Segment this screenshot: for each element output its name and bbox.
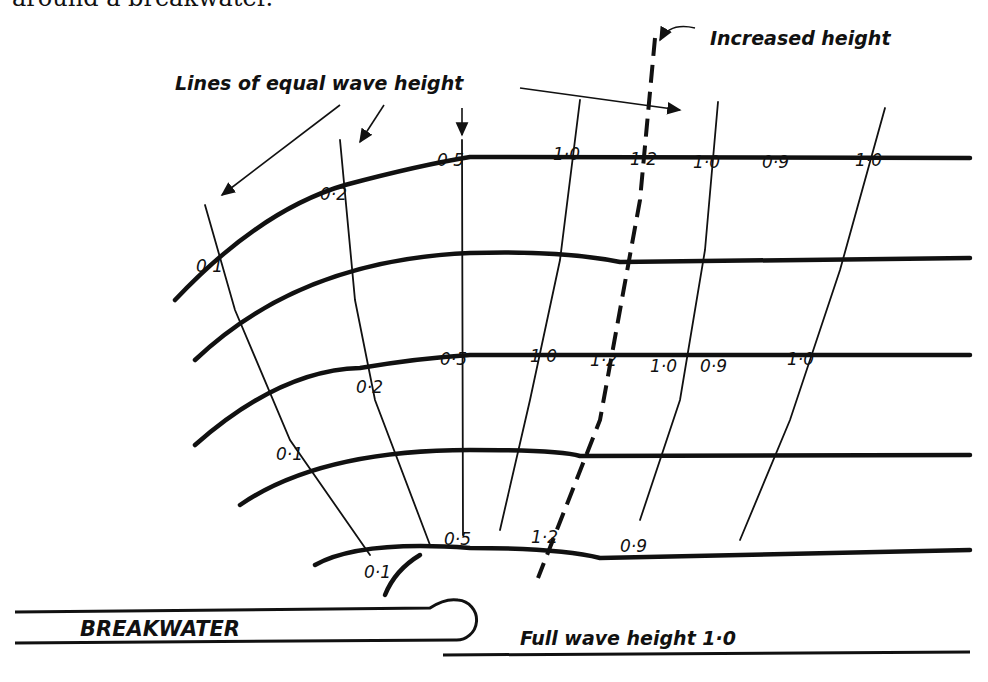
svg-text:0·1: 0·1 bbox=[196, 256, 223, 276]
wave-diffraction-diagram: Increased height Lines of equal wave hei… bbox=[0, 0, 988, 682]
svg-text:1·0: 1·0 bbox=[553, 144, 580, 164]
top-row-labels: 0·1 0·2 0·5 1·0 1·2 1·0 0·9 1·0 bbox=[196, 144, 882, 276]
svg-text:0·5: 0·5 bbox=[437, 150, 464, 170]
svg-text:0·2: 0·2 bbox=[356, 377, 383, 397]
svg-text:0·1: 0·1 bbox=[276, 444, 303, 464]
svg-text:1·0: 1·0 bbox=[787, 349, 814, 369]
svg-text:1·2: 1·2 bbox=[590, 350, 617, 370]
breakwater-label: BREAKWATER bbox=[80, 617, 240, 641]
full-wave-height-label: Full wave height 1·0 bbox=[520, 627, 736, 649]
svg-text:0·5: 0·5 bbox=[444, 529, 471, 549]
svg-text:0·1: 0·1 bbox=[364, 562, 391, 582]
equal-height-label: Lines of equal wave height bbox=[175, 72, 464, 94]
svg-text:1·2: 1·2 bbox=[531, 527, 558, 547]
svg-text:0·9: 0·9 bbox=[620, 536, 647, 556]
increased-height-arrow bbox=[660, 27, 695, 41]
svg-text:1·0: 1·0 bbox=[650, 356, 677, 376]
svg-text:0·9: 0·9 bbox=[762, 152, 789, 172]
svg-text:1·0: 1·0 bbox=[855, 150, 882, 170]
increased-height-line bbox=[538, 38, 655, 578]
middle-row-labels: 0·1 0·2 0·5 1·0 1·2 1·0 0·9 1·0 bbox=[276, 346, 814, 464]
increased-height-label: Increased height bbox=[710, 27, 891, 49]
svg-text:1·0: 1·0 bbox=[693, 152, 720, 172]
bottom-row-labels: 0·1 0·5 1·2 0·9 bbox=[364, 527, 647, 582]
wave-crests bbox=[175, 157, 970, 595]
breakwater: BREAKWATER bbox=[15, 600, 477, 643]
svg-text:0·2: 0·2 bbox=[320, 184, 347, 204]
svg-text:1·0: 1·0 bbox=[530, 346, 557, 366]
svg-text:0·9: 0·9 bbox=[700, 356, 727, 376]
svg-text:0·5: 0·5 bbox=[440, 349, 467, 369]
svg-text:1·2: 1·2 bbox=[630, 149, 657, 169]
